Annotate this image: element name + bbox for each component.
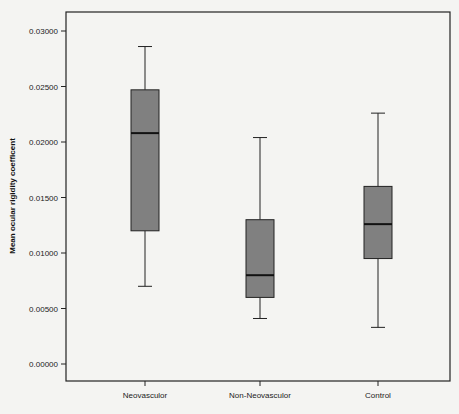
box-control [364, 113, 392, 327]
box-plot-chart: 0.000000.005000.010000.015000.020000.025… [0, 0, 459, 414]
y-tick-label: 0.02500 [29, 83, 58, 92]
x-axis: NeovasculorNon-NeovasculorControl [123, 381, 391, 400]
y-tick-label: 0.01000 [29, 249, 58, 258]
iqr-box [246, 220, 274, 298]
box-series [131, 47, 392, 328]
y-tick-label: 0.02000 [29, 138, 58, 147]
x-category-label: Neovasculor [123, 391, 168, 400]
x-category-label: Control [365, 391, 391, 400]
y-axis-label: Mean ocular rigidity coefficent [8, 138, 17, 254]
iqr-box [364, 186, 392, 258]
x-category-label: Non-Neovasculor [229, 391, 291, 400]
y-tick-label: 0.01500 [29, 194, 58, 203]
box-non-neovasculor [246, 138, 274, 319]
y-tick-label: 0.03000 [29, 27, 58, 36]
box-neovasculor [131, 47, 159, 287]
y-axis: 0.000000.005000.010000.015000.020000.025… [29, 27, 66, 369]
y-tick-label: 0.00500 [29, 305, 58, 314]
iqr-box [131, 90, 159, 231]
y-tick-label: 0.00000 [29, 360, 58, 369]
